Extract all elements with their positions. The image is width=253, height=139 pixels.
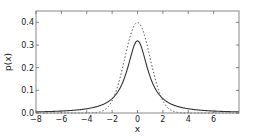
- y-tick-label: 0.2: [21, 64, 34, 73]
- x-axis-label: x: [135, 124, 141, 134]
- y-tick-label: 0.4: [21, 18, 34, 27]
- x-tick-label: 4: [186, 115, 191, 124]
- x-tick-label: 0: [135, 115, 140, 124]
- y-axis-label: p(x): [3, 53, 13, 71]
- x-tick-label: −2: [106, 115, 118, 124]
- chart: −8−6−4−20246 0.00.10.20.30.4 x p(x): [0, 0, 253, 139]
- x-tick-label: 2: [160, 115, 165, 124]
- y-tick-label: 0.1: [21, 86, 34, 95]
- y-tick-label: 0.0: [21, 109, 34, 118]
- y-tick-label: 0.3: [21, 41, 34, 50]
- plot-background: [36, 11, 239, 113]
- x-tick-label: −4: [81, 115, 93, 124]
- x-tick-label: 6: [211, 115, 216, 124]
- x-tick-label: −6: [55, 115, 67, 124]
